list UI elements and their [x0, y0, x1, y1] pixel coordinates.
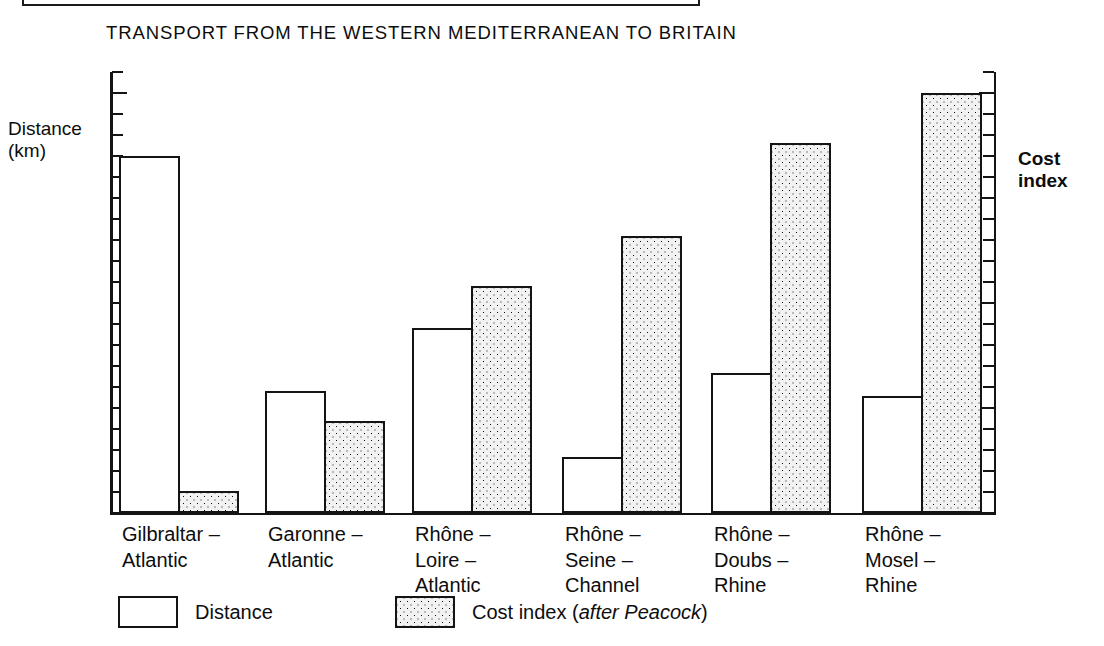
bar-cost-index: [770, 143, 831, 513]
right-axis-minor-tick: [983, 386, 994, 388]
right-axis-title-line2: index: [1018, 170, 1068, 192]
bar-cost-index: [921, 93, 982, 513]
right-axis-minor-tick: [983, 365, 994, 367]
left-axis-major-tick: [112, 92, 127, 94]
legend-swatch-cost-index: [395, 596, 455, 628]
bar-distance: [711, 373, 772, 513]
legend-label-cost-index-attribution: after Peacock: [579, 601, 701, 623]
right-axis-minor-tick: [983, 428, 994, 430]
bar-cost-index: [324, 421, 385, 513]
legend-label-cost-index-head: Cost index (: [472, 601, 579, 623]
left-axis-minor-tick: [112, 71, 123, 73]
bar-distance: [265, 391, 326, 513]
bar-distance: [119, 156, 180, 513]
right-axis-title-line1: Cost: [1018, 148, 1068, 170]
legend-label-cost-index-tail: ): [701, 601, 708, 623]
left-axis-title-line2: (km): [8, 140, 82, 162]
category-label: Rhône – Doubs – Rhine: [714, 522, 790, 599]
right-axis-minor-tick: [983, 470, 994, 472]
chart-legend: Distance Cost index (after Peacock): [0, 592, 1104, 644]
plot-area: 10001500200025003000 4000600080001000012…: [110, 72, 996, 515]
legend-label-cost-index: Cost index (after Peacock): [472, 601, 708, 624]
right-axis-minor-tick: [983, 323, 994, 325]
right-axis-minor-tick: [983, 134, 994, 136]
bar-distance: [562, 457, 623, 513]
left-axis-minor-tick: [112, 113, 123, 115]
right-axis-minor-tick: [983, 218, 994, 220]
bar-distance: [412, 328, 473, 513]
chart-page: TRANSPORT FROM THE WESTERN MEDITERRANEAN…: [0, 0, 1104, 646]
legend-entry-distance: Distance: [118, 596, 273, 628]
category-label: Rhône – Mosel – Rhine: [865, 522, 941, 599]
category-label: Garonne – Atlantic: [268, 522, 363, 573]
legend-entry-cost-index: Cost index (after Peacock): [395, 596, 708, 628]
category-label: Gilbraltar – Atlantic: [122, 522, 220, 573]
bar-cost-index: [178, 491, 239, 513]
left-axis-title: Distance (km): [8, 118, 82, 162]
right-axis-minor-tick: [983, 344, 994, 346]
left-axis-title-line1: Distance: [8, 118, 82, 140]
left-axis-minor-tick: [112, 134, 123, 136]
right-axis-minor-tick: [983, 239, 994, 241]
right-axis-minor-tick: [983, 155, 994, 157]
chart-title: TRANSPORT FROM THE WESTERN MEDITERRANEAN…: [106, 22, 737, 44]
right-axis-minor-tick: [983, 176, 994, 178]
right-axis-minor-tick: [983, 260, 994, 262]
bar-cost-index: [471, 286, 532, 513]
category-label: Rhône – Seine – Channel: [565, 522, 641, 599]
bar-cost-index: [621, 236, 682, 513]
category-label: Rhône – Loire – Atlantic: [415, 522, 491, 599]
legend-label-distance: Distance: [195, 601, 273, 624]
right-axis-minor-tick: [983, 71, 994, 73]
right-axis-minor-tick: [983, 281, 994, 283]
right-axis-minor-tick: [983, 113, 994, 115]
right-axis-title: Cost index: [1018, 148, 1068, 192]
caption-box-border-fragment: [22, 0, 700, 6]
right-axis-minor-tick: [983, 449, 994, 451]
bar-distance: [862, 396, 923, 513]
right-axis-minor-tick: [983, 491, 994, 493]
legend-swatch-distance: [118, 596, 178, 628]
